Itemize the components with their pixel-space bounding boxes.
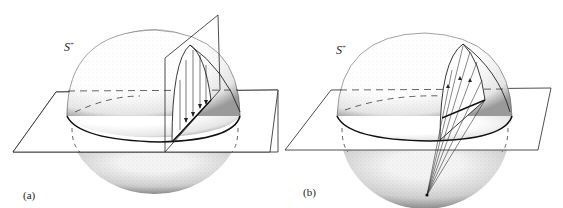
lower-hemisphere-b [343,150,507,208]
sphere-label-a-sup: + [70,40,74,48]
sphere-label-a: S+ [64,40,74,55]
lower-hemisphere-a [77,152,232,194]
upper-hemisphere-b [337,33,512,152]
panel-b [285,33,551,208]
figure-canvas [0,0,563,208]
south-pole-point [425,193,428,196]
panel-label-b: (b) [303,186,316,198]
sphere-label-b: S+ [336,43,346,58]
sphere-label-b-sup: + [342,43,346,51]
panel-a [13,15,278,194]
panel-label-a: (a) [23,189,35,201]
